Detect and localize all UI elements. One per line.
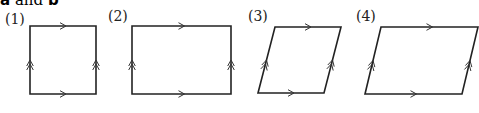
- figure-parallelogram: [365, 24, 478, 98]
- figure-rhombus: [258, 24, 341, 97]
- figures-canvas: [0, 0, 479, 113]
- figure-square: [27, 23, 100, 98]
- figure-rectangle: [129, 23, 235, 98]
